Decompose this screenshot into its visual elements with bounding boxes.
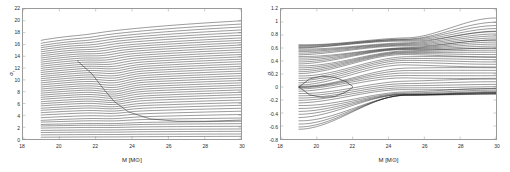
y-tick-label: 10 (4, 77, 20, 83)
panel-sigma-i: σi M [M⊙] 18202224262830-0.8-0.6-0.4-0.2… (255, 0, 510, 172)
y-tick-label: 22 (4, 5, 20, 11)
curve-branch-10 (299, 40, 496, 55)
curve-branch-46 (41, 136, 241, 137)
y-tick-label: 16 (4, 41, 20, 47)
x-axis-label-text: M [M⊙] (122, 157, 142, 163)
y-tick-label: -0.8 (262, 137, 278, 143)
curves-sigma-r (23, 9, 241, 139)
curves-sigma-i (281, 9, 496, 139)
x-tick-label: 28 (197, 143, 213, 149)
x-tick-label: 18 (14, 143, 30, 149)
x-axis-label-left: M [M⊙] (22, 156, 242, 163)
y-tick-label: 20 (4, 17, 20, 23)
x-tick-label: 22 (87, 143, 103, 149)
y-tick-label: 0.4 (262, 58, 278, 64)
y-tick-label: -0.6 (262, 124, 278, 130)
x-tick-label: 26 (161, 143, 177, 149)
curve-branch-42 (41, 126, 241, 128)
y-tick-label: -0.2 (262, 97, 278, 103)
y-tick-label: 0 (262, 84, 278, 90)
curve-branch-44 (299, 94, 496, 129)
x-tick-label: 22 (344, 143, 360, 149)
x-axis-label-text: M [M⊙] (379, 157, 399, 163)
curve-branch-45 (41, 134, 241, 135)
y-tick-label: 1.2 (262, 5, 278, 11)
y-tick-label: -0.4 (262, 111, 278, 117)
plot-area-sigma-i (280, 8, 497, 140)
y-tick-label: 8 (4, 89, 20, 95)
y-tick-label: 1 (262, 18, 278, 24)
panel-sigma-r: σr M [M⊙] 182022242628300246810121416182… (0, 0, 255, 172)
x-tick-label: 30 (489, 143, 505, 149)
x-tick-label: 24 (381, 143, 397, 149)
curve-branch-6 (41, 35, 241, 52)
x-tick-label: 24 (124, 143, 140, 149)
y-tick-label: 0.6 (262, 45, 278, 51)
x-tick-label: 18 (272, 143, 288, 149)
y-tick-label: 14 (4, 53, 20, 59)
curve-branch-43 (41, 129, 241, 130)
y-tick-label: 6 (4, 101, 20, 107)
curve-branch-24 (299, 62, 496, 82)
plot-area-sigma-r (22, 8, 242, 140)
y-tick-label: 0 (4, 137, 20, 143)
y-tick-label: 0.2 (262, 71, 278, 77)
curve-branch-19 (299, 53, 496, 71)
y-axis-label-symbol: σ (8, 72, 14, 76)
curve-branch-28 (299, 73, 496, 88)
x-tick-label: 28 (453, 143, 469, 149)
y-tick-label: 12 (4, 65, 20, 71)
curve-branch-1 (299, 18, 496, 45)
y-tick-label: 4 (4, 113, 20, 119)
x-tick-label: 30 (234, 143, 250, 149)
y-tick-label: 18 (4, 29, 20, 35)
curve-branch-44 (41, 131, 241, 132)
figure-container: σr M [M⊙] 182022242628300246810121416182… (0, 0, 510, 172)
x-tick-label: 20 (51, 143, 67, 149)
x-axis-label-right: M [M⊙] (280, 156, 497, 163)
curve-branch-13 (41, 52, 241, 66)
curve-branch-1 (41, 21, 241, 41)
curve-branch-24 (41, 78, 241, 89)
x-tick-label: 26 (417, 143, 433, 149)
curve-branch-17 (41, 62, 241, 75)
y-tick-label: 2 (4, 125, 20, 131)
curve-branch-28 (41, 88, 241, 98)
x-tick-label: 20 (308, 143, 324, 149)
y-tick-label: 0.8 (262, 31, 278, 37)
